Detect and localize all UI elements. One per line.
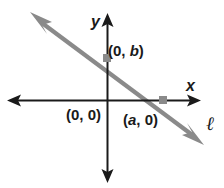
point-label-a-0: (a, 0) — [123, 112, 158, 127]
point-label-0-b-prefix: (0, — [108, 42, 130, 59]
x-axis — [7, 95, 201, 107]
line-ell-segment — [42, 23, 191, 134]
figure-canvas — [0, 0, 224, 188]
y-axis — [102, 13, 114, 183]
point-marker-a-0 — [159, 96, 167, 104]
point-label-0-b-variable: b — [130, 42, 139, 59]
line-ell — [30, 12, 204, 145]
line-ell-arrow-lower-right — [182, 123, 204, 145]
origin-label: (0, 0) — [66, 107, 101, 122]
line-ell-arrow-upper-left — [30, 12, 52, 34]
point-label-a-0-suffix: , 0) — [136, 111, 158, 128]
coordinate-plane-figure: y x (0, b) (0, 0) (a, 0) ℓ — [0, 0, 224, 188]
point-label-0-b: (0, b) — [108, 43, 144, 58]
point-label-0-b-suffix: ) — [139, 42, 144, 59]
line-label-ell: ℓ — [206, 114, 214, 133]
y-axis-label: y — [91, 14, 100, 30]
x-axis-label: x — [186, 78, 195, 94]
